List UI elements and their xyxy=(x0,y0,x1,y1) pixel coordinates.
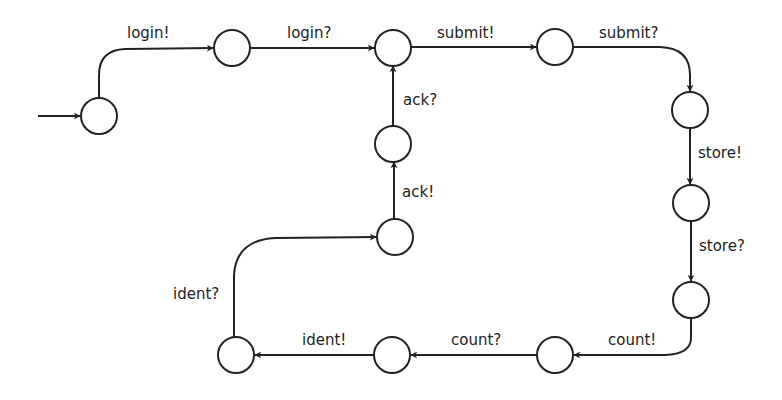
state-s6 xyxy=(673,185,709,221)
state-s8 xyxy=(537,337,573,373)
transition-ident-receive xyxy=(234,237,376,337)
state-s1-initial xyxy=(81,98,117,134)
label-store-send: store! xyxy=(698,144,742,162)
state-s3 xyxy=(375,30,411,66)
label-login-send: login! xyxy=(127,24,170,42)
state-s7 xyxy=(673,282,709,318)
transition-submit-receive xyxy=(573,47,690,91)
state-machine-diagram: login! login? submit! submit? store! sto… xyxy=(0,0,782,400)
state-s9 xyxy=(374,337,410,373)
label-ident-receive: ident? xyxy=(173,285,219,303)
state-s5 xyxy=(672,92,708,128)
label-ident-send: ident! xyxy=(302,331,346,349)
state-s4 xyxy=(537,29,573,65)
label-submit-send: submit! xyxy=(437,24,495,42)
label-count-receive: count? xyxy=(451,331,501,349)
state-s11 xyxy=(377,219,413,255)
label-store-receive: store? xyxy=(699,237,745,255)
label-ack-receive: ack? xyxy=(403,91,437,109)
transition-login-send xyxy=(99,48,213,98)
state-s10 xyxy=(218,337,254,373)
state-s12 xyxy=(375,126,411,162)
label-submit-receive: submit? xyxy=(599,24,658,42)
state-s2 xyxy=(214,30,250,66)
label-ack-send: ack! xyxy=(402,183,434,201)
label-count-send: count! xyxy=(608,331,656,349)
label-login-receive: login? xyxy=(287,24,332,42)
